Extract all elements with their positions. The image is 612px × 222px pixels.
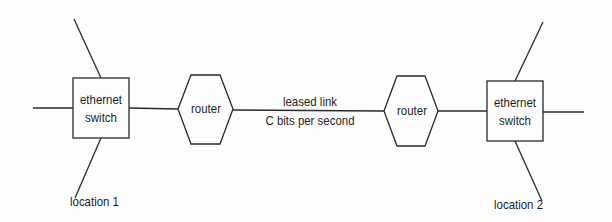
right-spoke-top <box>515 22 543 81</box>
link-switch-router-left <box>129 108 178 109</box>
ethernet-switch-left-label-1: ethernet <box>76 92 125 107</box>
location-2-label: location 2 <box>490 197 543 212</box>
leased-link-label: leased link <box>255 94 364 109</box>
network-diagram: ethernet switch router leased link C bit… <box>0 0 612 222</box>
ethernet-switch-right-label-1: ethernet <box>490 95 539 110</box>
ethernet-switch-right-label-2: switch <box>490 113 539 128</box>
link-capacity-label: C bits per second <box>255 113 364 128</box>
location-1-label: location 1 <box>70 194 123 209</box>
right-spoke-bottom <box>515 141 542 201</box>
ethernet-switch-left-box <box>73 78 129 138</box>
leased-link-line <box>233 110 384 111</box>
ethernet-switch-right-box <box>487 81 543 141</box>
left-spoke-top <box>74 19 101 78</box>
ethernet-switch-left-label-2: switch <box>76 110 125 125</box>
router-left-label: router <box>183 101 229 116</box>
left-spoke-bottom <box>75 138 101 198</box>
router-right-label: router <box>389 103 435 118</box>
